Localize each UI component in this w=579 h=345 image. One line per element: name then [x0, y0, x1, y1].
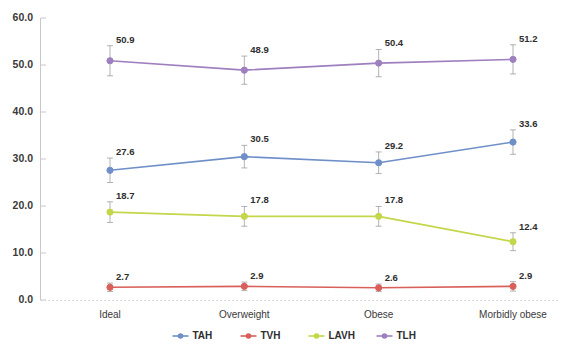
data-point-marker [107, 209, 113, 215]
x-tick-label: Morbidly obese [479, 309, 547, 320]
x-axis: IdealOverweightObeseMorbidly obese [41, 301, 561, 321]
x-tick-label: Ideal [99, 309, 121, 320]
series-line [110, 142, 513, 170]
data-point-label: 18.7 [116, 190, 135, 201]
x-tick-label: Overweight [219, 309, 270, 320]
legend-label: TVH [261, 330, 281, 341]
series-tvh [107, 282, 516, 292]
legend-item-tvh[interactable]: TVH [241, 330, 281, 341]
data-point-label: 50.9 [116, 34, 135, 45]
data-point-marker [376, 285, 382, 291]
data-point-marker [510, 139, 516, 145]
data-point-label: 29.2 [385, 140, 404, 151]
series-lavh [107, 202, 516, 251]
x-tick-labels: IdealOverweightObeseMorbidly obese [99, 309, 547, 320]
y-tick-label: 20.0 [13, 199, 34, 211]
data-point-marker [376, 60, 382, 66]
data-point-marker [510, 56, 516, 62]
legend-item-lavh[interactable]: LAVH [309, 330, 355, 341]
series-line [110, 212, 513, 242]
series-tah [107, 130, 516, 183]
data-point-marker [107, 167, 113, 173]
y-tick-label: 50.0 [13, 58, 34, 70]
legend-swatch-marker [314, 333, 320, 339]
y-tick-label: 60.0 [13, 11, 34, 23]
legend-swatch-marker [382, 333, 388, 339]
data-point-marker [510, 283, 516, 289]
legend-swatch-marker [246, 333, 252, 339]
data-point-label: 50.4 [385, 37, 404, 48]
y-tick-label: 10.0 [13, 246, 34, 258]
chart-legend: TAHTVHLAVHTLH [173, 330, 416, 341]
data-point-label: 33.6 [519, 118, 538, 129]
data-point-labels: 27.630.529.233.62.72.92.62.918.717.817.8… [116, 33, 538, 283]
legend-label: TLH [397, 330, 416, 341]
chart-canvas: 0.010.020.030.040.050.060.0 IdealOverwei… [0, 0, 579, 345]
data-point-label: 48.9 [250, 44, 268, 55]
data-point-marker [376, 213, 382, 219]
y-tick-label: 40.0 [13, 105, 34, 117]
data-point-label: 17.8 [250, 194, 268, 205]
data-point-marker [241, 67, 247, 73]
legend-label: TAH [193, 330, 213, 341]
legend-item-tah[interactable]: TAH [173, 330, 213, 341]
y-tick-label: 30.0 [13, 152, 34, 164]
series-line [110, 59, 513, 70]
data-point-label: 12.4 [519, 221, 538, 232]
data-point-label: 27.6 [116, 146, 135, 157]
data-point-marker [510, 239, 516, 245]
data-point-marker [107, 284, 113, 290]
series-line [110, 286, 513, 287]
legend-swatch-marker [178, 333, 184, 339]
y-tick-label: 0.0 [18, 293, 33, 305]
y-axis: 0.010.020.030.040.050.060.0 [13, 11, 46, 305]
data-series-group [107, 45, 516, 292]
data-point-marker [241, 154, 247, 160]
legend-label: LAVH [329, 330, 355, 341]
data-point-label: 51.2 [519, 33, 538, 44]
data-point-marker [376, 160, 382, 166]
data-point-label: 2.9 [519, 270, 532, 281]
data-point-marker [241, 283, 247, 289]
x-tick-label: Obese [364, 309, 394, 320]
line-chart: 0.010.020.030.040.050.060.0 IdealOverwei… [0, 0, 579, 345]
data-point-marker [107, 58, 113, 64]
data-point-label: 2.6 [385, 272, 398, 283]
data-point-marker [241, 213, 247, 219]
data-point-label: 2.7 [116, 271, 129, 282]
series-tlh [107, 45, 516, 84]
data-point-label: 17.8 [385, 194, 404, 205]
data-point-label: 30.5 [250, 133, 269, 144]
data-point-label: 2.9 [250, 270, 263, 281]
legend-item-tlh[interactable]: TLH [377, 330, 416, 341]
